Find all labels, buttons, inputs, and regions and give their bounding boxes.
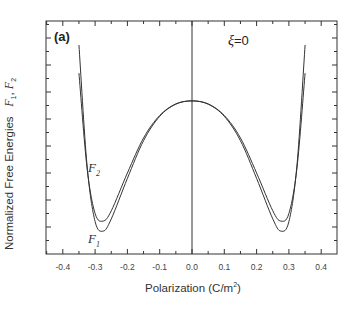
panel-label: (a) (54, 29, 70, 44)
f2-label-main: F (88, 160, 96, 175)
f1-curve-label: F1 (88, 231, 100, 249)
y-axis-f1-sub: 1 (10, 96, 17, 100)
f1-label-main: F (88, 231, 96, 246)
x-axis-label-text: Polarization (C/m (145, 282, 233, 294)
x-axis-label-close: ) (237, 282, 241, 294)
x-axis-label: Polarization (C/m2) (145, 281, 241, 294)
x-tick-label: -0.2 (120, 262, 135, 272)
x-tick-label: -0.3 (88, 262, 103, 272)
f2-label-sub: 2 (96, 169, 100, 178)
x-tick-label: 0.1 (218, 262, 230, 272)
y-axis-f2-sub: 2 (10, 78, 17, 82)
y-axis-sep: , (3, 89, 15, 95)
y-axis-label-text: Normalized Free Energies (3, 116, 15, 250)
x-tick-label: 0.3 (283, 262, 295, 272)
x-tick-labels: -0.4-0.3-0.2-0.10.00.10.20.30.4 (55, 262, 327, 272)
y-axis-label: Normalized Free Energies F1, F2 (2, 78, 17, 250)
x-tick-label: -0.1 (152, 262, 167, 272)
y-axis-f1: F (2, 99, 16, 106)
xi-annotation: ξ=0 (228, 33, 249, 49)
x-tick-label: 0.2 (251, 262, 263, 272)
f2-curve-label: F2 (88, 160, 100, 178)
y-axis-f2: F (2, 82, 16, 89)
f1-label-sub: 1 (96, 240, 100, 249)
xi-value: =0 (234, 33, 249, 48)
x-tick-label: 0.0 (186, 262, 198, 272)
chart-plot-area: -0.4-0.3-0.2-0.10.00.10.20.30.4 (0, 0, 357, 311)
x-tick-label: -0.4 (55, 262, 70, 272)
x-tick-label: 0.4 (315, 262, 327, 272)
